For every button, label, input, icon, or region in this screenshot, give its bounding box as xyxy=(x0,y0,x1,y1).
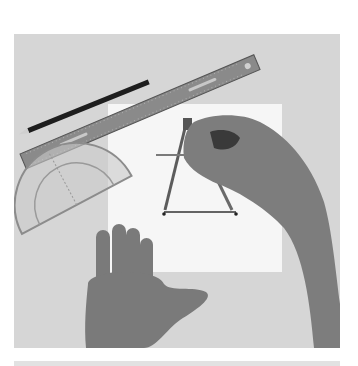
bottom-strip xyxy=(14,361,340,366)
photo xyxy=(14,34,340,348)
